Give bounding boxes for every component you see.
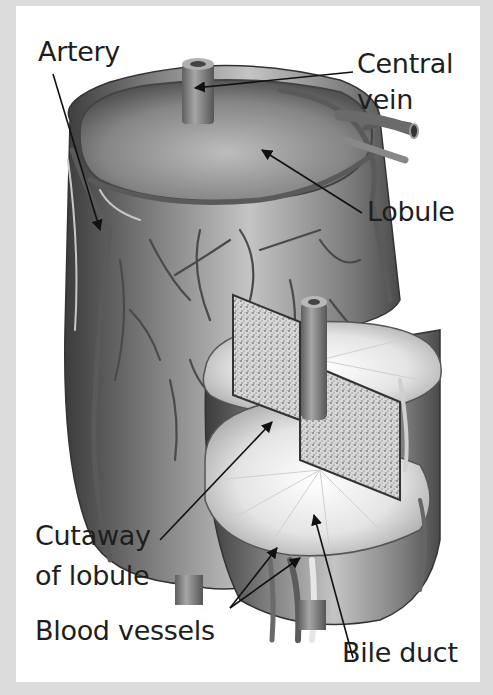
label-artery: Artery — [38, 36, 120, 67]
label-cutaway-line2: of lobule — [35, 560, 149, 591]
label-central-vein-line2: vein — [357, 84, 413, 115]
label-cutaway-line1: Cutaway — [35, 520, 151, 551]
label-central-vein-line1: Central — [357, 48, 453, 79]
label-blood-vessels: Blood vessels — [35, 615, 215, 646]
cutaway-lobule — [203, 295, 441, 640]
label-bile-duct: Bile duct — [342, 637, 458, 668]
label-lobule: Lobule — [367, 196, 455, 227]
